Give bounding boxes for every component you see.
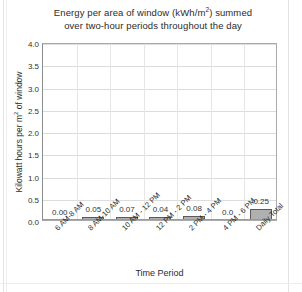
page-border-left	[3, 0, 4, 292]
y-axis-title-pre: Kilowatt hours per m	[14, 115, 24, 192]
y-axis-tick-label: 2.0	[28, 129, 39, 138]
bar-slot: 0.07	[110, 44, 144, 220]
x-axis-title: Time Period	[42, 268, 277, 278]
chart-title-line2: over two-hour periods throughout the day	[64, 20, 242, 31]
chart-page: Energy per area of window (kWh/m2) summe…	[0, 0, 302, 292]
page-border-left-inner	[6, 0, 7, 292]
y-axis-tick-label: 4.0	[28, 40, 39, 49]
bar-slot: 0.04	[144, 44, 178, 220]
chart-title-line1-end: ) summed	[209, 7, 252, 18]
bar-slot: 0.25	[244, 44, 278, 220]
bar-slot: 0.05	[77, 44, 111, 220]
y-axis-title-post: of window	[14, 72, 24, 112]
bar-slot: 0.08	[177, 44, 211, 220]
y-axis-tick-label: 3.5	[28, 62, 39, 71]
y-axis-tick-label: 1.0	[28, 173, 39, 182]
y-axis-tick-label: 0.0	[28, 218, 39, 227]
y-axis-tick-label: 1.5	[28, 151, 39, 160]
bar-slot: 0.0	[211, 44, 245, 220]
chart-title-line1-text: Energy per area of window (kWh/m	[54, 7, 206, 18]
y-axis-tick-label: 3.0	[28, 84, 39, 93]
y-axis-tick-label: 0.5	[28, 195, 39, 204]
bar-slot: 0.00	[43, 44, 77, 220]
page-border-bottom	[0, 283, 302, 284]
chart-title: Energy per area of window (kWh/m2) summe…	[22, 6, 284, 32]
y-axis-title: Kilowatt hours per m2 of window	[14, 72, 24, 193]
y-axis-tick-label: 2.5	[28, 106, 39, 115]
y-axis-title-superscript: 2	[13, 112, 19, 115]
page-border-right	[288, 0, 289, 292]
